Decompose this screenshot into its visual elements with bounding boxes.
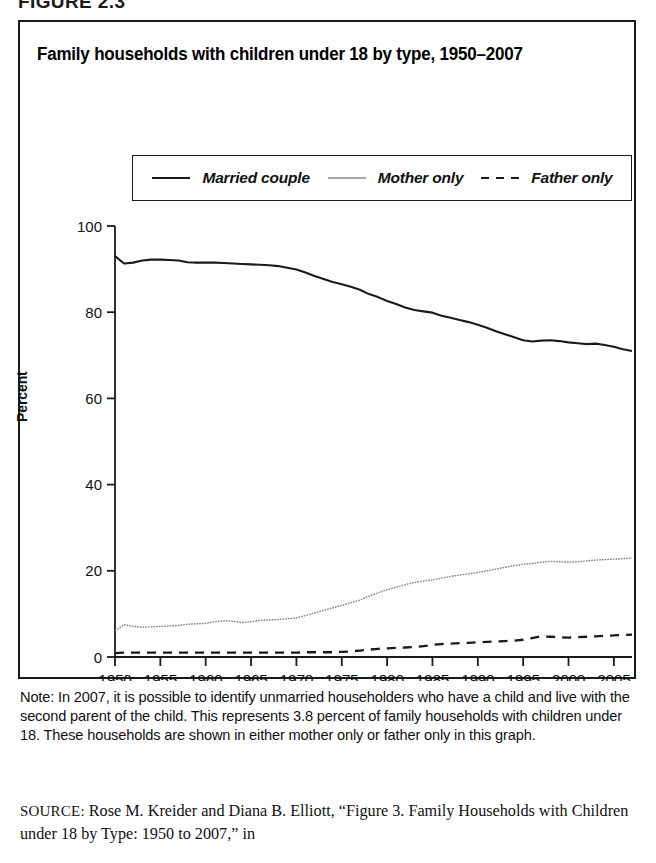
x-tick-label: 2000 (552, 671, 586, 681)
x-tick-label: 1985 (416, 671, 449, 681)
x-tick-label: 1970 (280, 671, 314, 681)
x-tick-label: 1995 (507, 671, 540, 681)
x-tick-label: 1960 (189, 671, 223, 681)
x-tick-label: 1975 (325, 671, 358, 681)
y-tick-label: 100 (77, 218, 102, 235)
x-tick-label: 1950 (98, 671, 132, 681)
x-tick-label: 2005 (597, 671, 630, 681)
x-tick-label: 1980 (370, 671, 404, 681)
y-tick-label: 20 (85, 562, 102, 579)
x-tick-label: 1990 (461, 671, 495, 681)
series-line-mother-only (115, 558, 632, 631)
axis-layer (107, 226, 632, 666)
chart-source: SOURCE: Rose M. Kreider and Diana B. Ell… (20, 800, 636, 846)
figure-number-label: FIGURE 2.3 (18, 0, 125, 11)
x-tick-label: 1955 (144, 671, 177, 681)
series-line-father-only (115, 635, 632, 654)
series-layer (115, 256, 632, 653)
y-tick-label: 80 (85, 304, 102, 321)
source-text: Rose M. Kreider and Diana B. Elliott, “F… (20, 802, 628, 843)
chart-figure-box: Family households with children under 18… (18, 20, 636, 679)
x-tick-label: 1965 (234, 671, 267, 681)
chart-note: Note: In 2007, it is possible to identif… (20, 688, 636, 746)
y-tick-label: 0 (94, 649, 102, 666)
y-tick-label: 40 (85, 476, 102, 493)
line-chart-canvas: 0204060801001950195519601965197019751980… (20, 22, 638, 681)
source-prefix: SOURCE: (20, 803, 85, 819)
y-tick-label: 60 (85, 390, 102, 407)
series-line-married-couple (115, 256, 632, 351)
plot-area: 0204060801001950195519601965197019751980… (20, 22, 638, 681)
